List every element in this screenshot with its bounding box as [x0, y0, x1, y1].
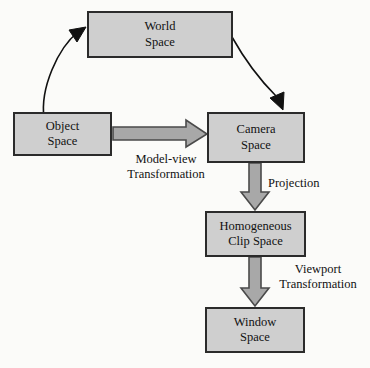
arrow-object-to-world: [43, 27, 86, 118]
diagram-canvas: World Space Object Space Camera Space Ho…: [0, 0, 370, 368]
node-window-space-label: Window Space: [234, 315, 277, 346]
node-camera-space-label: Camera Space: [237, 122, 276, 153]
edge-label-viewport-transformation: Viewport Transformation: [266, 262, 370, 293]
node-world-space-label: World Space: [145, 19, 176, 50]
edge-label-model-view-transformation: Model-view Transformation: [114, 152, 218, 183]
arrow-camera-to-clip: [241, 163, 269, 210]
node-world-space: World Space: [87, 11, 233, 58]
node-camera-space: Camera Space: [207, 112, 305, 163]
edge-label-projection: Projection: [268, 176, 348, 191]
node-window-space: Window Space: [205, 307, 305, 353]
arrow-object-to-camera: [113, 120, 207, 147]
arrow-world-to-camera: [232, 37, 284, 110]
arrow-clip-to-window: [241, 257, 269, 306]
node-object-space-label: Object Space: [46, 119, 79, 150]
node-object-space: Object Space: [13, 112, 112, 156]
node-homogeneous-clip-space: Homogeneous Clip Space: [205, 211, 306, 257]
node-homogeneous-clip-space-label: Homogeneous Clip Space: [219, 219, 291, 250]
